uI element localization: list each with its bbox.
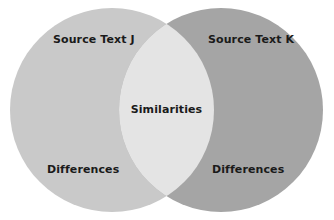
venn-label-source-text-j: Source Text J: [53, 34, 135, 45]
venn-label-similarities: Similarities: [0, 104, 334, 115]
venn-diagram: Source Text J Source Text K Similarities…: [0, 0, 334, 220]
venn-label-differences-right: Differences: [212, 164, 284, 175]
venn-label-differences-left: Differences: [47, 164, 119, 175]
venn-label-source-text-k: Source Text K: [208, 34, 294, 45]
